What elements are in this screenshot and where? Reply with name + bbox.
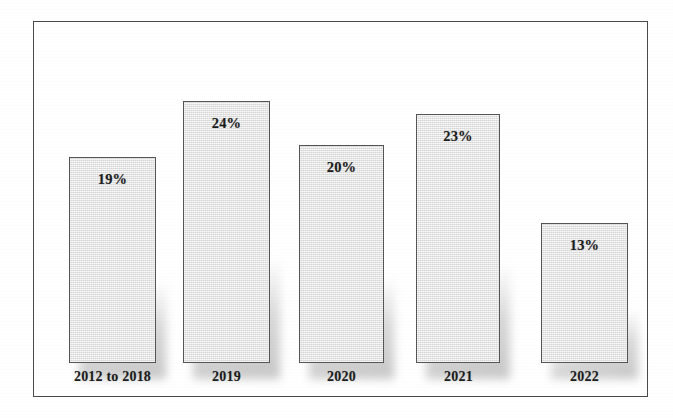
- bar-value-label: 23%: [417, 128, 499, 145]
- x-axis-label-2021: 2021: [400, 369, 517, 385]
- bar-group: 20%: [299, 145, 384, 363]
- scanned-page: 19% 24% 20%: [0, 0, 673, 418]
- bar-value-label: 20%: [300, 159, 383, 176]
- x-axis-label-2012-to-2018: 2012 to 2018: [54, 369, 171, 385]
- x-axis-label-2022: 2022: [526, 369, 643, 385]
- bar-rect[interactable]: 23%: [416, 114, 500, 363]
- bar-group: 19%: [69, 157, 156, 363]
- bar-rect[interactable]: 13%: [541, 223, 628, 363]
- bar-rect[interactable]: 24%: [183, 101, 270, 363]
- bar-rect[interactable]: 20%: [299, 145, 384, 363]
- bar-value-label: 19%: [70, 171, 155, 188]
- bar-group: 23%: [416, 114, 500, 363]
- x-axis-label-2019: 2019: [168, 369, 285, 385]
- bar-value-label: 24%: [184, 115, 269, 132]
- bar-group: 13%: [541, 223, 628, 363]
- bar-group: 24%: [183, 101, 270, 363]
- bar-value-label: 13%: [542, 237, 627, 254]
- x-axis-label-2020: 2020: [283, 369, 400, 385]
- bar-rect[interactable]: 19%: [69, 157, 156, 363]
- chart-frame: 19% 24% 20%: [33, 21, 648, 397]
- plot-area: 19% 24% 20%: [34, 22, 649, 398]
